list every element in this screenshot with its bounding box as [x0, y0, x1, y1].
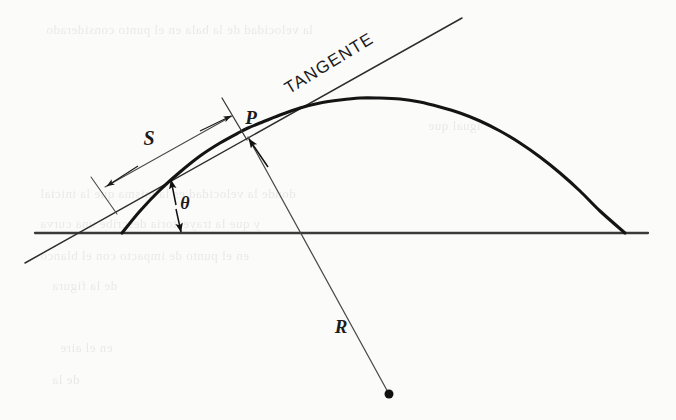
label-point-p: P — [244, 107, 257, 128]
figure-container: la velocidad de la bala en el punto cons… — [0, 0, 676, 420]
arc-length-dimension-group — [91, 98, 247, 214]
label-tangente: TANGENTE — [281, 29, 377, 98]
trajectory-group — [122, 98, 625, 233]
angle-arrow-up-icon — [171, 180, 176, 205]
tangent-line — [25, 18, 462, 263]
radius-arrow-group — [249, 139, 268, 167]
arc-arrow-left-icon — [107, 166, 138, 186]
label-launch-angle: θ — [180, 193, 190, 213]
radius-line-group — [248, 137, 394, 399]
tangent-line-group — [25, 18, 462, 263]
figure-labels-group: TANGENTE S P θ R — [143, 29, 377, 337]
arc-arrow-right-icon — [200, 116, 231, 131]
radius-arrow-at-p-icon — [249, 139, 268, 167]
center-of-curvature-dot — [385, 390, 394, 399]
trajectory-diagram-svg: TANGENTE S P θ R — [0, 0, 676, 420]
label-arc-length: S — [143, 127, 154, 149]
radius-normal-line — [248, 137, 389, 394]
arc-length-dimension-line — [105, 116, 232, 187]
trajectory-parabola — [122, 98, 625, 233]
label-radius-r: R — [334, 316, 348, 337]
